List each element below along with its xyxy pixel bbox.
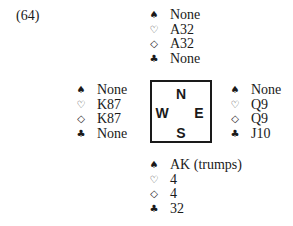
club-icon: ♣ <box>76 127 86 142</box>
compass-south-label: S <box>174 126 188 140</box>
diamond-icon: ◇ <box>76 112 86 127</box>
east-diamonds-cards: Q9 <box>251 112 268 127</box>
club-icon: ♣ <box>149 52 159 67</box>
heart-icon: ♡ <box>149 23 159 38</box>
heart-icon: ♡ <box>230 98 240 113</box>
south-spades-cards: AK (trumps) <box>170 158 242 173</box>
diamond-icon: ◇ <box>230 112 240 127</box>
south-hearts-cards: 4 <box>170 173 177 188</box>
compass-box: N W E S <box>150 80 212 143</box>
club-icon: ♣ <box>149 202 159 217</box>
compass-west-label: W <box>155 106 169 120</box>
problem-number: (64) <box>16 8 39 24</box>
north-hearts-cards: A32 <box>170 23 194 38</box>
heart-icon: ♡ <box>76 98 86 113</box>
spade-icon: ♠ <box>149 158 159 173</box>
heart-icon: ♡ <box>149 173 159 188</box>
west-hearts-cards: K87 <box>97 98 121 113</box>
east-spades-cards: None <box>251 83 281 98</box>
spade-icon: ♠ <box>149 8 159 23</box>
west-spades-cards: None <box>97 83 127 98</box>
north-clubs-cards: None <box>170 52 200 67</box>
north-diamonds-cards: A32 <box>170 37 194 52</box>
spade-icon: ♠ <box>76 83 86 98</box>
south-diamonds-cards: 4 <box>170 187 177 202</box>
west-clubs-cards: None <box>97 127 127 142</box>
compass-east-label: E <box>192 106 206 120</box>
south-clubs-cards: 32 <box>170 202 184 217</box>
diamond-icon: ◇ <box>149 37 159 52</box>
east-clubs-cards: J10 <box>251 127 270 142</box>
diamond-icon: ◇ <box>149 187 159 202</box>
spade-icon: ♠ <box>230 83 240 98</box>
north-spades-cards: None <box>170 8 200 23</box>
east-hearts-cards: Q9 <box>251 98 268 113</box>
club-icon: ♣ <box>230 127 240 142</box>
west-diamonds-cards: K87 <box>97 112 121 127</box>
compass-north-label: N <box>174 87 188 101</box>
